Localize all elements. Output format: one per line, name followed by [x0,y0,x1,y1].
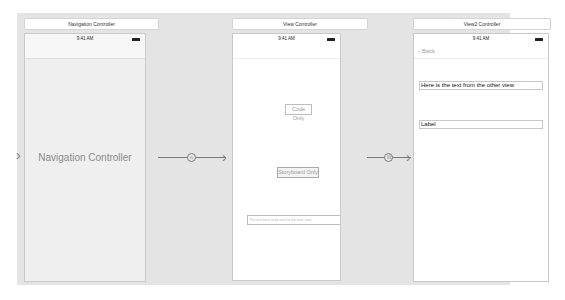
status-bar: 9:41 AM [233,34,340,46]
navigation-bar: 9:41 AM [233,34,340,59]
received-text-label: Here is the text from the other view [419,81,543,90]
navigation-controller-label: Navigation Controller [25,152,145,163]
label: Label [419,120,543,129]
send-text-field[interactable]: Put text here to be sent to the next vie… [247,215,341,225]
navigation-bar: 9:41 AM ‹ Back [414,34,548,59]
back-button[interactable]: ‹ Back [418,48,435,54]
status-time: 9:41 AM [473,36,490,41]
arrow-head-icon: › [222,150,227,164]
back-chevron-icon: ‹ [418,48,420,54]
status-bar: 9:41 AM [414,34,548,46]
status-time: 9:41 AM [77,36,94,41]
scene-title-view2-controller[interactable]: View2 Controller [413,18,551,30]
battery-icon [132,38,140,41]
battery-icon [327,38,335,41]
status-time: 9:41 AM [278,36,295,41]
show-segue-icon[interactable]: ⊡ [384,153,393,162]
scene-title-view-controller[interactable]: View Controller [232,18,368,30]
code-only-button[interactable]: Code Only [285,104,312,115]
navigation-controller-scene[interactable]: 9:41 AM Navigation Controller [24,33,146,282]
view2-controller-scene[interactable]: 9:41 AM ‹ Back Here is the text from the… [413,33,549,282]
status-bar: 9:41 AM [25,34,145,46]
scene-title-navigation-controller[interactable]: Navigation Controller [24,18,159,30]
storyboard-only-button[interactable]: Storyboard Only [277,167,319,178]
relationship-segue-icon[interactable]: ⦸ [187,153,196,162]
back-button-label: Back [422,48,435,54]
entry-point-arrow-icon[interactable]: › [16,147,21,163]
view-controller-scene[interactable]: 9:41 AM Code Only Storyboard Only Put te… [232,33,341,281]
battery-icon [535,38,543,41]
navigation-bar: 9:41 AM [25,34,145,59]
arrow-head-icon: › [406,150,411,164]
